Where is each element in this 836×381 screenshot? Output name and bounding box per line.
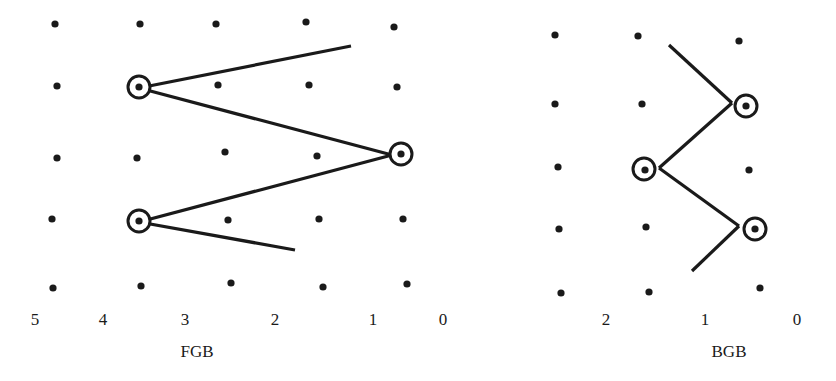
lattice-dot	[315, 215, 322, 222]
lattice-dot	[645, 288, 652, 295]
lattice-dot	[551, 100, 558, 107]
path-segment	[139, 222, 295, 250]
fgb-axis-tick-label: 4	[99, 310, 108, 330]
bgb-axis-tick-label: 2	[602, 310, 611, 330]
fgb-title: FGB	[180, 342, 213, 362]
lattice-dot	[551, 31, 558, 38]
lattice-dot	[135, 83, 142, 90]
path-segment	[692, 226, 739, 271]
lattice-dot	[305, 81, 312, 88]
fgb-axis-tick-label: 5	[31, 310, 40, 330]
lattice-dot	[224, 216, 231, 223]
fgb-axis-tick-label: 2	[271, 310, 280, 330]
lattice-dot	[313, 152, 320, 159]
lattice-dot	[735, 37, 742, 44]
lattice-dot	[214, 81, 221, 88]
lattice-dot	[227, 279, 234, 286]
lattice-dot	[745, 166, 752, 173]
lattice-dot	[135, 217, 142, 224]
path-segment	[139, 155, 392, 222]
lattice-dot	[133, 154, 140, 161]
fgb-panel	[48, 18, 412, 291]
lattice-dot	[634, 32, 641, 39]
lattice-dot	[642, 223, 649, 230]
lattice-dot	[53, 82, 60, 89]
lattice-dot	[221, 148, 228, 155]
lattice-dot	[638, 100, 645, 107]
path-segment	[659, 168, 739, 226]
lattice-dot	[319, 283, 326, 290]
lattice-dot	[751, 225, 758, 232]
path-segment	[139, 46, 351, 88]
lattice-dot	[641, 166, 648, 173]
lattice-dot	[212, 20, 219, 27]
lattice-dot	[399, 215, 406, 222]
diagram-canvas: 543210210 FGB BGB	[0, 0, 836, 381]
fgb-axis-tick-label: 0	[439, 310, 448, 330]
fgb-axis-tick-label: 3	[181, 310, 190, 330]
lattice-dot	[393, 83, 400, 90]
lattice-dot	[51, 20, 58, 27]
lattice-dot	[48, 215, 55, 222]
lattice-diagram	[0, 0, 836, 381]
lattice-dot	[136, 20, 143, 27]
lattice-dot	[53, 154, 60, 161]
bgb-title: BGB	[712, 342, 747, 362]
lattice-dot	[742, 102, 749, 109]
path-segment	[669, 45, 732, 103]
lattice-dot	[756, 284, 763, 291]
bgb-panel	[551, 31, 766, 296]
lattice-dot	[137, 282, 144, 289]
lattice-dot	[390, 23, 397, 30]
lattice-dot	[397, 150, 404, 157]
bgb-axis-tick-label: 1	[701, 310, 710, 330]
lattice-dot	[555, 225, 562, 232]
path-segment	[139, 88, 392, 155]
lattice-dot	[403, 280, 410, 287]
lattice-dot	[557, 289, 564, 296]
path-segment	[659, 103, 732, 168]
bgb-axis-tick-label: 0	[793, 310, 802, 330]
lattice-dot	[554, 163, 561, 170]
lattice-dot	[49, 284, 56, 291]
fgb-axis-tick-label: 1	[369, 310, 378, 330]
lattice-dot	[302, 18, 309, 25]
